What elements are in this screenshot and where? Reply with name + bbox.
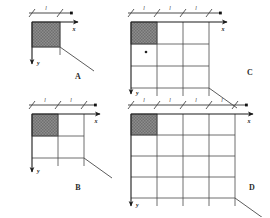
rail-end-node bbox=[70, 12, 73, 15]
y-axis-label: y bbox=[135, 202, 139, 208]
rail-end-node bbox=[245, 104, 248, 107]
panel-letter-c: C bbox=[247, 68, 253, 77]
node-marker bbox=[145, 51, 148, 54]
diagonal-leader-d bbox=[235, 198, 263, 217]
dimension-label: l bbox=[195, 5, 197, 11]
dimension-label: l bbox=[195, 97, 197, 103]
dimension-label: l bbox=[44, 97, 46, 103]
x-axis-label: x bbox=[94, 118, 98, 124]
panel-c: lllxyC bbox=[128, 5, 253, 109]
rail-end-node bbox=[94, 104, 97, 107]
shaded-cell-c bbox=[131, 22, 157, 44]
shaded-cell-d bbox=[131, 114, 157, 135]
shaded-cell-a bbox=[32, 22, 60, 47]
panel-d: llllxyD bbox=[128, 97, 263, 218]
panel-letter-a: A bbox=[75, 72, 81, 81]
y-axis-label: y bbox=[135, 90, 139, 96]
panel-letter-b: B bbox=[75, 183, 81, 192]
y-axis-label: y bbox=[36, 60, 40, 66]
panel-a: lxyA bbox=[29, 5, 94, 82]
dimension-label: l bbox=[169, 97, 171, 103]
rail-end-node bbox=[219, 12, 222, 15]
figure-canvas: lxyAllxyBlllxyCllllxyD bbox=[0, 0, 270, 217]
shaded-cell-b bbox=[32, 114, 58, 136]
panel-letter-d: D bbox=[249, 183, 255, 192]
dimension-label: l bbox=[143, 97, 145, 103]
diagonal-leader-a bbox=[60, 47, 94, 71]
diagonal-leader-b bbox=[84, 158, 112, 178]
diagram-svg: lxyAllxyBlllxyCllllxyD bbox=[0, 0, 270, 217]
panels-group: lxyAllxyBlllxyCllllxyD bbox=[29, 5, 263, 218]
x-axis-label: x bbox=[247, 118, 251, 124]
dimension-label: l bbox=[70, 97, 72, 103]
dimension-label: l bbox=[143, 5, 145, 11]
x-axis-label: x bbox=[221, 26, 225, 32]
panel-b: llxyB bbox=[29, 97, 112, 193]
dimension-label: l bbox=[221, 97, 223, 103]
y-axis-label: y bbox=[36, 168, 40, 174]
x-axis-label: x bbox=[72, 26, 76, 32]
dimension-label: l bbox=[45, 5, 47, 11]
dimension-label: l bbox=[169, 5, 171, 11]
